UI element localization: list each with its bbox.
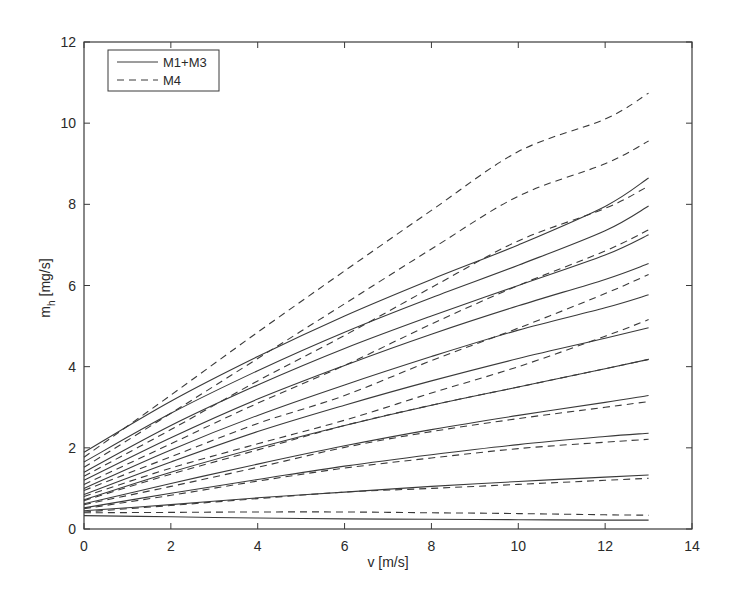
plot-frame <box>84 42 692 529</box>
series-m4-dashed-line <box>84 439 649 508</box>
x-tick-label: 4 <box>254 538 262 554</box>
y-tick-label: 4 <box>68 359 76 375</box>
plot-border <box>84 42 692 529</box>
series-m4-dashed-line <box>84 512 649 515</box>
y-tick-label: 10 <box>60 115 76 131</box>
legend: M1+M3 M4 <box>108 50 219 91</box>
y-tick-label: 2 <box>68 440 76 456</box>
x-tick-label: 2 <box>167 538 175 554</box>
series-m1m3-solid-line <box>84 178 649 452</box>
y-axis-label: mh [mg/s] <box>37 258 57 317</box>
series-m1m3-solid-line <box>84 206 649 462</box>
series-m1m3-solid-line <box>84 396 649 504</box>
x-axis-label: v [m/s] <box>367 554 408 570</box>
series-m1m3-solid-line <box>84 516 649 521</box>
y-tick-label: 0 <box>68 521 76 537</box>
series-m1m3-solid-line <box>84 264 649 481</box>
series-m4-dashed-line <box>84 141 649 467</box>
x-tick-label: 12 <box>597 538 613 554</box>
y-tick-label: 12 <box>60 34 76 50</box>
y-tick-label: 6 <box>68 278 76 294</box>
y-axis-label-main: m <box>37 306 53 318</box>
x-tick-label: 8 <box>428 538 436 554</box>
y-tick-label: 8 <box>68 196 76 212</box>
line-chart: 02468101214 024681012 v [m/s] mh [mg/s] … <box>0 0 735 603</box>
series-m1m3-solid-line <box>84 328 649 495</box>
series-layer <box>84 93 649 520</box>
series-m1m3-solid-line <box>84 433 649 508</box>
legend-label-m4: M4 <box>163 73 181 88</box>
x-tick-label: 0 <box>80 538 88 554</box>
y-axis-label-unit: [mg/s] <box>37 258 53 300</box>
x-tick-label: 14 <box>684 538 700 554</box>
series-m4-dashed-line <box>84 402 649 505</box>
series-m4-dashed-line <box>84 186 649 476</box>
x-tick-label: 6 <box>341 538 349 554</box>
series-m1m3-solid-line <box>84 235 649 472</box>
x-tick-label: 10 <box>510 538 526 554</box>
legend-label-m1m3: M1+M3 <box>163 55 207 70</box>
